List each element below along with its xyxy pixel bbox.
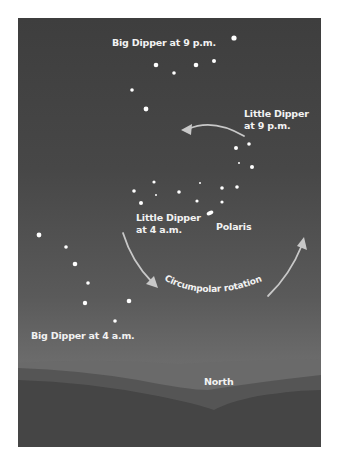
arrowhead-up-icon: [297, 237, 307, 250]
night-sky-panel: Circumpolar rotation Big Dipper at 9 p.m…: [18, 18, 321, 447]
north-label: North: [204, 376, 233, 388]
big-dipper-4am-label: Big Dipper at 4 a.m.: [31, 330, 135, 342]
little-dipper-4am-label-line1: Little Dipper: [136, 212, 201, 224]
arrow-4am-curve: [123, 233, 152, 282]
arrowheads: [146, 124, 307, 288]
arrow-right-curve: [268, 245, 302, 296]
arrow-9pm-curve: [188, 125, 244, 136]
polaris-label: Polaris: [216, 221, 251, 233]
little-dipper-9pm-stars: [220, 142, 254, 203]
little-dipper-4am-stars: [132, 180, 224, 205]
big-dipper-9pm-label: Big Dipper at 9 p.m.: [112, 37, 216, 49]
arrowhead-left-icon: [181, 124, 192, 135]
big-dipper-4am-stars: [37, 233, 132, 323]
polaris-star: [206, 210, 214, 217]
little-dipper-4am-label-line2: at 4 a.m.: [136, 224, 182, 236]
little-dipper-9pm-label-line2: at 9 p.m.: [244, 120, 290, 132]
little-dipper-9pm-label-line1: Little Dipper: [244, 108, 309, 120]
rotation-arrows: [123, 125, 302, 296]
circumpolar-rotation-label: Circumpolar rotation: [163, 273, 263, 294]
